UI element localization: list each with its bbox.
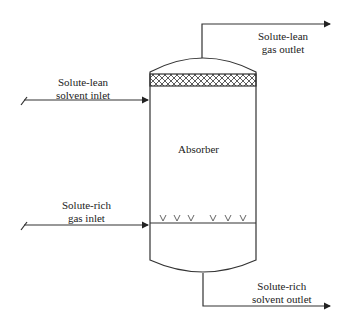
packing-bed <box>150 74 256 86</box>
solvent-outlet-label: Solute-rich solvent outlet <box>252 280 312 306</box>
bubble-caps <box>160 215 246 221</box>
absorber-label: Absorber <box>178 143 219 156</box>
gas-inlet-label: Solute-rich gas inlet <box>62 199 111 225</box>
vessel-shell <box>150 58 256 272</box>
solvent-inlet-label: Solute-lean solvent inlet <box>56 76 110 102</box>
gas-outlet-label: Solute-lean gas outlet <box>258 30 308 56</box>
